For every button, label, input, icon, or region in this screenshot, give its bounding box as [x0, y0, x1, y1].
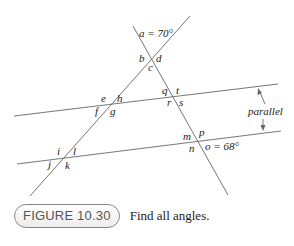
parallel-label: parallel — [247, 105, 283, 117]
parallel-arrow-down-icon — [261, 119, 266, 131]
figure-caption: FIGURE 10.30 Find all angles. — [14, 204, 209, 228]
angle-label-k: k — [65, 159, 71, 171]
angle-label-f: f — [95, 105, 100, 117]
transversal-right — [133, 26, 228, 195]
angle-label-n: n — [189, 142, 195, 154]
parallel-arrow-up-icon — [258, 88, 266, 104]
angle-label-g: g — [110, 105, 116, 117]
angle-label-m: m — [183, 130, 191, 142]
caption-text: Find all angles. — [130, 208, 210, 224]
upper-parallel-line — [14, 84, 278, 116]
angle-label-t: t — [176, 84, 180, 96]
angle-label-s: s — [179, 96, 183, 108]
angle-label-b: b — [139, 52, 145, 64]
angle-label-l: l — [73, 145, 76, 157]
angle-label-h: h — [117, 92, 123, 104]
angle-label-p: p — [198, 126, 205, 138]
figure-number-badge: FIGURE 10.30 — [14, 204, 120, 228]
angle-label-j: j — [46, 158, 51, 170]
angle-label-r: r — [167, 96, 172, 108]
angle-label-o: o = 68° — [205, 140, 239, 152]
angle-label-a: a = 70° — [139, 27, 173, 39]
angle-label-i: i — [57, 145, 60, 157]
angle-label-q: q — [162, 84, 168, 96]
angle-label-e: e — [101, 92, 106, 104]
angle-label-d: d — [156, 52, 162, 64]
angle-label-c: c — [148, 61, 153, 73]
